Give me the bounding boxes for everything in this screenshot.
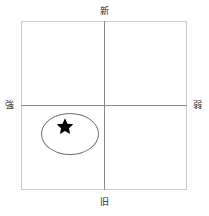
axis-label-left: 強 [2,100,16,110]
axis-label-right: 弱 [190,100,204,110]
axis-label-top: 新 [0,6,209,16]
horizontal-axis-line [21,105,187,106]
axis-label-bottom: 旧 [0,197,209,207]
star-marker-icon [56,117,74,135]
positioning-matrix-diagram: 新 旧 強 弱 [0,0,209,216]
